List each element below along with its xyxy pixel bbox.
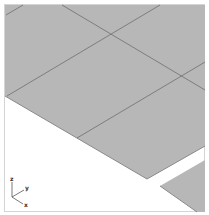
scene-render — [0, 0, 209, 215]
3d-viewport[interactable]: z y x — [0, 0, 209, 215]
x-axis-label: x — [24, 202, 28, 208]
y-axis-label: y — [25, 185, 29, 191]
z-axis-label: z — [10, 176, 14, 182]
